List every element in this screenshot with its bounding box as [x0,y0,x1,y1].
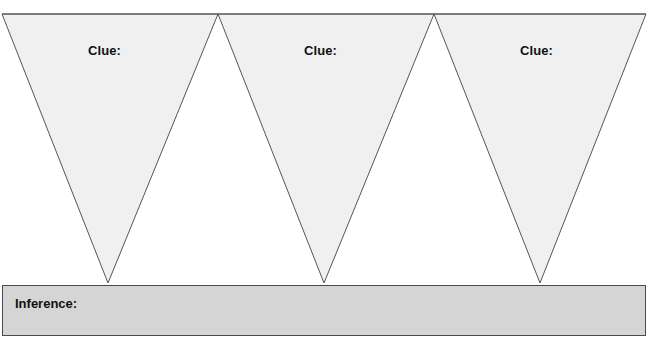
clue-label-2: Clue: [304,44,337,57]
inference-label: Inference: [15,297,77,310]
inference-box[interactable]: Inference: [2,285,646,336]
clue-label-1: Clue: [88,44,121,57]
clue-label-3: Clue: [520,44,553,57]
graphic-organizer-worksheet: Clue: Clue: Clue: Inference: [0,0,654,338]
